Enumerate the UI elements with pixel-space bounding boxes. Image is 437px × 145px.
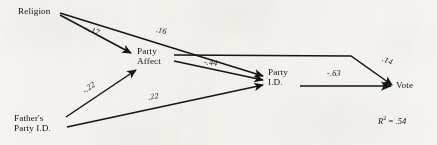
node-religion-line1: Religion xyxy=(18,6,50,16)
edge-fathers-party-id-to-party-affect xyxy=(66,70,136,117)
r-squared-value: .54 xyxy=(396,116,407,126)
edge-label-party-affect-to-party-id: -.44 xyxy=(203,57,218,68)
node-party-id-line2: I.D. xyxy=(268,77,288,87)
node-fathers-party-id-line2: Party I.D. xyxy=(14,123,51,133)
edge-party-affect-to-party-id xyxy=(174,61,263,80)
node-party-affect: Party Affect xyxy=(137,46,161,67)
edge-fathers-party-id-to-party-id xyxy=(67,85,263,127)
path-diagram-figure: Religion Party Affect Party I.D. Vote Fa… xyxy=(0,0,437,145)
node-vote-line1: Vote xyxy=(396,80,413,90)
node-party-affect-line2: Affect xyxy=(137,56,161,66)
node-fathers-party-id: Father's Party I.D. xyxy=(14,113,51,134)
node-party-id-line1: Party xyxy=(268,67,288,77)
node-party-id: Party I.D. xyxy=(268,67,288,88)
node-vote: Vote xyxy=(396,80,413,90)
edge-label-party-id-to-vote: -.63 xyxy=(327,69,341,78)
r-squared-equals: = xyxy=(386,116,395,126)
diagram-canvas xyxy=(0,0,437,145)
node-religion: Religion xyxy=(18,6,50,16)
r-squared-annotation: R2 = .54 xyxy=(378,114,406,126)
node-fathers-party-id-line1: Father's xyxy=(14,113,51,123)
edge-religion-to-party-id xyxy=(60,13,263,76)
edge-label-religion-to-party-id: .16 xyxy=(155,25,167,36)
node-party-affect-line1: Party xyxy=(137,46,161,56)
